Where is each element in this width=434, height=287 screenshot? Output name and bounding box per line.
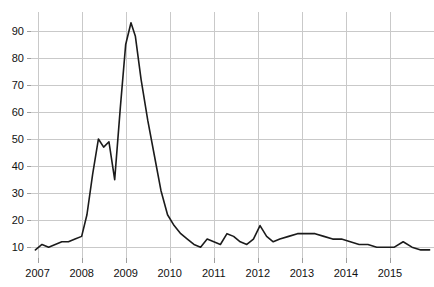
x-tick-label: 2007	[25, 267, 49, 279]
y-tick-label: 90	[12, 25, 24, 37]
x-tick-label: 2009	[113, 267, 137, 279]
x-tick-label: 2008	[69, 267, 93, 279]
data-series-line	[35, 23, 429, 250]
horizontal-gridlines	[31, 32, 434, 248]
y-tick-label: 80	[12, 52, 24, 64]
x-axis-tickmarks	[39, 258, 391, 263]
y-tick-label: 60	[12, 106, 24, 118]
x-tick-label: 2011	[202, 267, 226, 279]
x-tick-label: 2015	[378, 267, 402, 279]
vertical-gridlines	[39, 12, 391, 258]
y-axis-tickmarks	[27, 32, 31, 248]
y-axis-labels: 102030405060708090	[12, 25, 24, 253]
x-tick-label: 2014	[334, 267, 358, 279]
y-tick-label: 40	[12, 160, 24, 172]
x-axis-labels: 200720082009201020112012201320142015	[25, 267, 402, 279]
chart-container: 102030405060708090 200720082009201020112…	[0, 0, 434, 287]
y-tick-label: 10	[12, 241, 24, 253]
line-chart-plot: 102030405060708090 200720082009201020112…	[0, 0, 434, 287]
y-tick-label: 20	[12, 214, 24, 226]
x-tick-label: 2010	[157, 267, 181, 279]
x-tick-label: 2013	[290, 267, 314, 279]
y-tick-label: 50	[12, 133, 24, 145]
y-tick-label: 70	[12, 79, 24, 91]
x-tick-label: 2012	[246, 267, 270, 279]
y-tick-label: 30	[12, 187, 24, 199]
